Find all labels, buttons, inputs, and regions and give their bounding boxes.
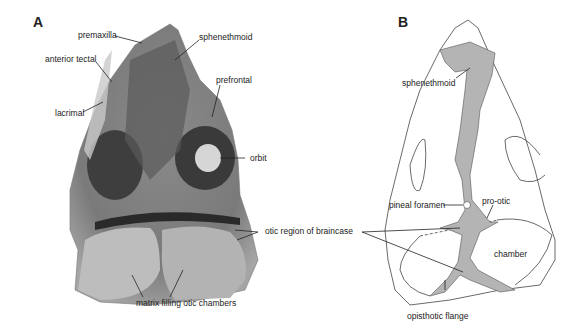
label-anterior-tectal: anterior tectal [45,54,97,64]
label-sphenethmoid-b: sphenethmoid [402,78,455,88]
label-chamber: chamber [494,249,527,259]
label-lacrimal: lacrimal [55,108,84,118]
label-otic-region: otic region of braincase [265,226,353,236]
panel-b-letter: B [398,14,408,30]
label-premaxilla: premaxilla [78,30,117,40]
label-pro-otic: pro-otic [482,196,510,206]
label-prefrontal: prefrontal [216,75,252,85]
label-opisthotic-flange: opisthotic flange [407,311,468,321]
label-matrix: matrix filling otic chambers [136,298,236,308]
figure-graphics [0,0,586,335]
fossil-photo [70,24,258,305]
label-pineal-foramen: pineal foramen [389,200,445,210]
label-orbit: orbit [250,153,267,163]
panel-a-letter: A [33,14,43,30]
label-sphenethmoid-a: sphenethmoid [199,32,252,42]
pineal-foramen-hole [464,202,471,209]
